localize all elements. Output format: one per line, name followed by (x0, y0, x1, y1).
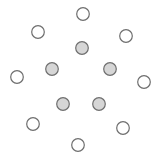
empty-circle-node (117, 122, 130, 135)
filled-circle-node (46, 63, 59, 76)
empty-circle-node (120, 30, 133, 43)
circle-diagram (0, 0, 160, 162)
diagram-svg (0, 0, 160, 162)
empty-circle-node (27, 118, 40, 131)
empty-circle-node (11, 71, 24, 84)
filled-circle-node (104, 63, 117, 76)
filled-circle-node (93, 98, 106, 111)
empty-circle-node (72, 139, 85, 152)
filled-circle-node (76, 42, 89, 55)
empty-circle-node (77, 8, 90, 21)
empty-circle-node (32, 26, 45, 39)
empty-circle-node (138, 76, 151, 89)
filled-circle-node (57, 98, 70, 111)
